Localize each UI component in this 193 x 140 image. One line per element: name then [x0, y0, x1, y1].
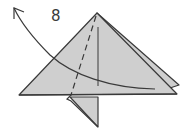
origami-diagram: 8: [0, 0, 193, 140]
step-number: 8: [51, 9, 61, 24]
diagram-canvas: [0, 0, 193, 140]
base-edge: [19, 94, 177, 95]
